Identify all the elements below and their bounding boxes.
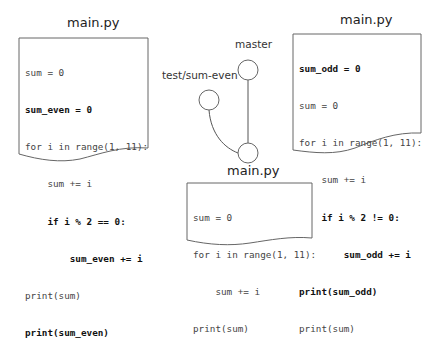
code-line-added: print(sum_even) <box>25 327 148 339</box>
code-line-added: if i % 2 != 0: <box>299 212 422 224</box>
code-line: print(sum) <box>193 323 316 335</box>
bottom-file-title: main.py <box>227 163 280 178</box>
code-line: for i in range(1, 11): <box>25 141 148 153</box>
code-line: for i in range(1, 11): <box>299 137 422 149</box>
feature-branch-label: test/sum-even <box>162 69 238 81</box>
code-line: sum += i <box>299 174 422 186</box>
code-line: print(sum) <box>25 290 148 302</box>
code-line: sum = 0 <box>299 100 422 112</box>
right-file-title: main.py <box>340 12 393 27</box>
bottom-code-block: sum = 0 for i in range(1, 11): sum += i … <box>193 187 316 342</box>
right-code-block: sum_odd = 0 sum = 0 for i in range(1, 11… <box>299 38 422 342</box>
code-line: for i in range(1, 11): <box>193 249 316 261</box>
code-line: sum = 0 <box>25 67 148 79</box>
code-line-added: sum_odd += i <box>299 249 422 261</box>
code-line-added: sum_even += i <box>25 253 148 265</box>
code-line: print(sum) <box>299 323 422 335</box>
master-commit-node[interactable] <box>238 60 258 80</box>
base-commit-node[interactable] <box>238 143 258 163</box>
code-line: sum += i <box>25 178 148 190</box>
code-line-added: sum_odd = 0 <box>299 63 422 75</box>
feature-edge <box>209 110 238 153</box>
left-code-block: sum = 0 sum_even = 0 for i in range(1, 1… <box>25 42 148 342</box>
feature-commit-node[interactable] <box>199 90 219 110</box>
master-branch-label: master <box>235 38 272 50</box>
code-line: sum = 0 <box>193 212 316 224</box>
code-line-added: if i % 2 == 0: <box>25 216 148 228</box>
code-line-added: sum_even = 0 <box>25 104 148 116</box>
code-line: sum += i <box>193 286 316 298</box>
left-file-title: main.py <box>67 15 120 30</box>
code-line-added: print(sum_odd) <box>299 286 422 298</box>
